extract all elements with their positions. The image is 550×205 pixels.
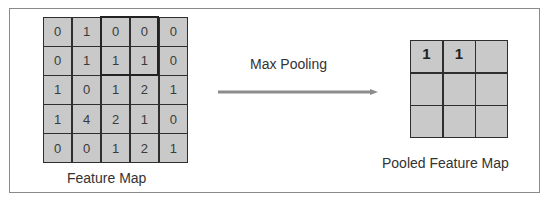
- feature-map-cell: 0: [160, 47, 187, 75]
- pooled-map-cell: 1: [444, 41, 475, 72]
- feature-map-cell: 1: [131, 105, 158, 133]
- feature-map-cell: 1: [131, 47, 158, 75]
- feature-map-cell: 0: [102, 18, 129, 46]
- pooled-map-cell: [476, 106, 507, 137]
- feature-map-grid: 0 1 0 0 0 0 1 1 1 0 1 0 1 2 1 1 4 2 1 0 …: [43, 17, 188, 163]
- pooled-map-cell: [476, 74, 507, 105]
- pooled-map-grid: 1 1: [410, 40, 508, 138]
- feature-map-cell: 4: [73, 105, 100, 133]
- pooled-map-cell: [411, 74, 442, 105]
- feature-map-cell: 1: [102, 134, 129, 162]
- feature-map-cell: 0: [131, 18, 158, 46]
- feature-map-cell: 0: [44, 18, 71, 46]
- pooled-map-label: Pooled Feature Map: [382, 155, 509, 171]
- feature-map-cell: 0: [160, 18, 187, 46]
- feature-map-cell: 1: [102, 47, 129, 75]
- pooled-map-cell: [476, 41, 507, 72]
- pooled-map-cell: 1: [411, 41, 442, 72]
- arrow-right-icon: [218, 89, 378, 95]
- feature-map-cell: 1: [160, 134, 187, 162]
- feature-map-cell: 1: [160, 76, 187, 104]
- feature-map-cell: 2: [102, 105, 129, 133]
- feature-map-cell: 1: [73, 18, 100, 46]
- feature-map-cell: 1: [44, 105, 71, 133]
- feature-map-label: Feature Map: [67, 170, 146, 186]
- feature-map-cell: 1: [102, 76, 129, 104]
- operation-label: Max Pooling: [250, 56, 327, 72]
- feature-map-cell: 2: [131, 134, 158, 162]
- feature-map-cell: 0: [160, 105, 187, 133]
- feature-map-cell: 0: [73, 134, 100, 162]
- feature-map-cell: 0: [44, 47, 71, 75]
- pooled-map-cell: [444, 74, 475, 105]
- feature-map-cell: 1: [73, 47, 100, 75]
- feature-map-cell: 0: [73, 76, 100, 104]
- pooled-map-cell: [411, 106, 442, 137]
- feature-map-cell: 2: [131, 76, 158, 104]
- feature-map-cell: 0: [44, 134, 71, 162]
- feature-map-cell: 1: [44, 76, 71, 104]
- pooled-map-cell: [444, 106, 475, 137]
